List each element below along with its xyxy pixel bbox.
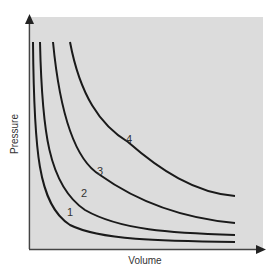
curve-label-4: 4	[126, 133, 132, 145]
curve-label-1: 1	[67, 206, 73, 218]
plot-background	[28, 17, 263, 249]
curve-label-2: 2	[81, 187, 87, 199]
isotherm-chart: 1 2 3 4 Volume Pressure	[0, 0, 278, 274]
curve-label-3: 3	[97, 165, 103, 177]
x-axis-label: Volume	[128, 255, 162, 266]
y-axis-label: Pressure	[9, 114, 20, 154]
